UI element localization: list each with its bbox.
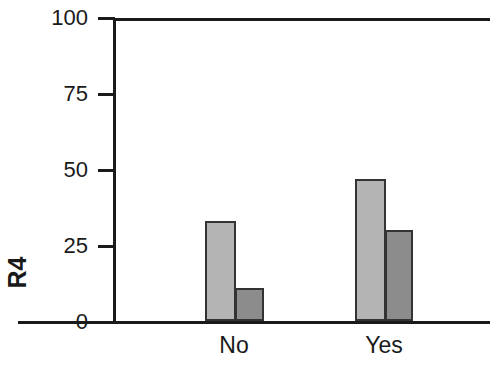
y-tick-50: 50 [28,159,88,181]
bar-yes-series-1 [355,179,386,321]
y-tick-75: 75 [28,83,88,105]
x-tick-label-no: No [174,332,294,358]
x-axis-baseline [18,321,490,324]
x-tick-label-yes: Yes [324,332,444,358]
y-tick-label-25: 25 [28,235,88,257]
top-frame-rule [113,18,490,21]
y-tick-100: 100 [28,7,88,29]
bar-no-series-2 [235,288,264,321]
y-tick-label-100: 100 [28,7,88,29]
y-tick-label-75: 75 [28,83,88,105]
y-tick-label-50: 50 [28,159,88,181]
y-tick-25: 25 [28,235,88,257]
bar-chart-figure: R4 100 75 50 25 0 No Yes [0,0,490,372]
y-axis-spine [113,18,116,324]
bar-yes-series-2 [385,230,413,321]
bar-no-series-1 [205,221,236,321]
